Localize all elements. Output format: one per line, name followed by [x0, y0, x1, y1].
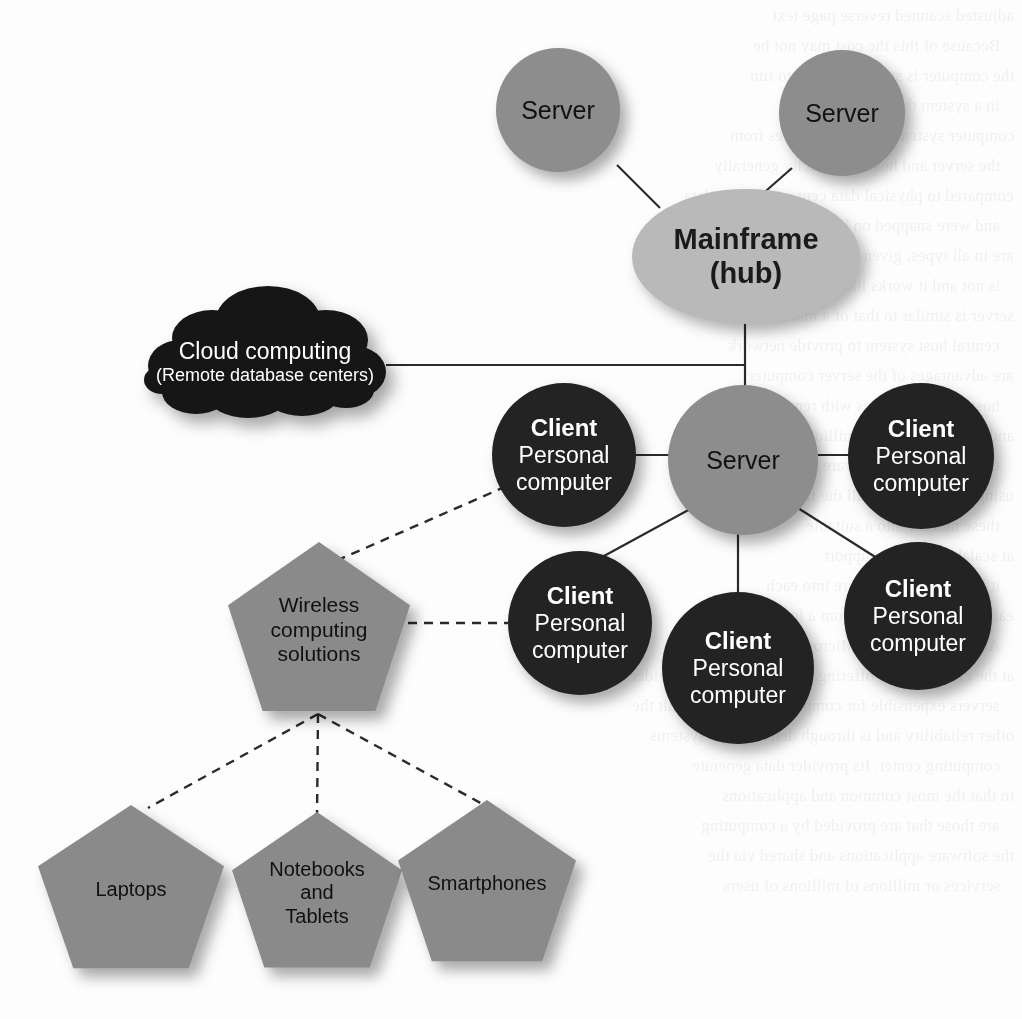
client-line2: Personal [876, 443, 967, 469]
node-client-right-upper[interactable]: Client Personal computer [848, 383, 994, 529]
network-diagram: adjusted scanned reverse page textBecaus… [0, 0, 1022, 1019]
node-server-top-right-label: Server [805, 99, 879, 128]
node-client-bottom-center-label: Client Personal computer [690, 627, 786, 708]
client-lead: Client [690, 627, 786, 655]
node-client-left-lower-label: Client Personal computer [532, 582, 628, 663]
client-lead: Client [532, 582, 628, 610]
client-line3: computer [532, 637, 628, 663]
pentagon-icon [228, 542, 410, 718]
pentagon-icon [398, 800, 576, 968]
node-wireless[interactable]: Wireless computing solutions [228, 542, 410, 718]
node-client-bottom-center[interactable]: Client Personal computer [662, 592, 814, 744]
client-line2: Personal [519, 442, 610, 468]
node-mainframe-line2: (hub) [710, 257, 782, 289]
edge-wireless-to-smartphones [318, 714, 486, 806]
node-laptops[interactable]: Laptops [38, 805, 224, 975]
node-server-top-left[interactable]: Server [496, 48, 620, 172]
client-lead: Client [516, 414, 612, 442]
client-line2: Personal [693, 655, 784, 681]
edge-wireless-to-notebooks [317, 714, 318, 818]
client-line2: Personal [535, 610, 626, 636]
client-line3: computer [873, 470, 969, 496]
node-server-top-left-label: Server [521, 96, 595, 125]
client-lead: Client [873, 415, 969, 443]
node-client-left-upper-label: Client Personal computer [516, 414, 612, 495]
node-mainframe-line1: Mainframe [673, 223, 818, 255]
client-line3: computer [870, 630, 966, 656]
client-line3: computer [690, 682, 786, 708]
client-line3: computer [516, 469, 612, 495]
client-lead: Client [870, 575, 966, 603]
edge-server-top-left-to-mainframe [617, 165, 660, 208]
node-client-left-lower[interactable]: Client Personal computer [508, 551, 652, 695]
node-mainframe-label: Mainframe (hub) [673, 223, 818, 290]
node-smartphones[interactable]: Smartphones [398, 800, 576, 968]
node-client-left-upper[interactable]: Client Personal computer [492, 383, 636, 527]
cloud-icon [140, 280, 390, 430]
client-line2: Personal [873, 603, 964, 629]
node-client-right-lower-label: Client Personal computer [870, 575, 966, 656]
pentagon-icon [232, 812, 402, 974]
node-client-right-upper-label: Client Personal computer [873, 415, 969, 496]
node-server-top-right[interactable]: Server [779, 50, 905, 176]
node-server-center[interactable]: Server [668, 385, 818, 535]
edge-server-center-to-client-right-lower [798, 508, 880, 560]
node-notebooks[interactable]: Notebooks and Tablets [232, 812, 402, 974]
edge-wireless-to-laptops [148, 714, 318, 808]
node-mainframe[interactable]: Mainframe (hub) [632, 189, 860, 324]
pentagon-icon [38, 805, 224, 975]
node-server-center-label: Server [706, 446, 780, 475]
node-cloud[interactable]: Cloud computing (Remote database centers… [140, 280, 390, 430]
node-client-right-lower[interactable]: Client Personal computer [844, 542, 992, 690]
